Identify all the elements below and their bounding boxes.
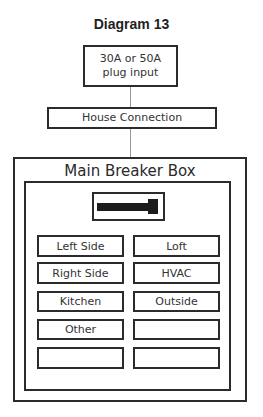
breaker-left-side: Left Side: [37, 235, 124, 257]
breaker-empty-slot: [133, 347, 220, 369]
main-breaker-box-title: Main Breaker Box: [15, 162, 245, 180]
breaker-panel: Left Side Loft Right Side HVAC Kitchen O…: [24, 181, 231, 391]
breaker-outside: Outside: [133, 291, 220, 312]
plug-input-node: 30A or 50A plug input: [83, 45, 178, 87]
main-breaker-box: Main Breaker Box Left Side Loft Right Si…: [13, 157, 247, 402]
switch-handle: [97, 203, 155, 211]
breaker-right-side: Right Side: [37, 262, 124, 284]
breaker-other: Other: [37, 319, 124, 340]
connector-line: [130, 87, 131, 107]
breaker-empty-slot: [133, 319, 220, 340]
breaker-loft: Loft: [133, 235, 220, 257]
breaker-empty-slot: [37, 347, 124, 369]
switch-tab: [148, 199, 158, 214]
connector-line: [130, 129, 131, 157]
breaker-hvac: HVAC: [133, 262, 220, 284]
diagram-title: Diagram 13: [0, 16, 263, 32]
main-breaker-switch-icon: [92, 192, 165, 221]
breaker-kitchen: Kitchen: [37, 291, 124, 312]
house-connection-node: House Connection: [47, 107, 217, 129]
